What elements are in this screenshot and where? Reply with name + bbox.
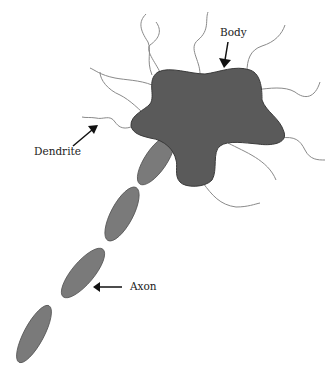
dendrite-label: Dendrite (34, 145, 81, 157)
axon-segment-3 (55, 242, 112, 304)
axon-label: Axon (129, 280, 157, 292)
dendrite-annotation: Dendrite (34, 125, 98, 157)
dendrite-lower-right-1 (280, 138, 325, 161)
dendrite-right (255, 82, 320, 97)
body-label: Body (220, 26, 247, 38)
body-arrow-shaft (225, 42, 228, 60)
dendrite-top-right (247, 25, 285, 72)
dendrite-top-2 (149, 22, 160, 72)
body-annotation: Body (219, 26, 247, 68)
axon (10, 130, 181, 367)
axon-segment-2 (98, 182, 146, 245)
neuron-svg: Body Dendrite Axon (0, 0, 334, 376)
body-arrow-head-icon (219, 58, 231, 68)
dendrite-top-3 (194, 12, 208, 74)
dendrite-lower-right-2 (228, 143, 276, 180)
axon-annotation: Axon (93, 280, 157, 292)
neuron-diagram: Body Dendrite Axon (0, 0, 334, 376)
axon-arrow-head-icon (93, 282, 100, 292)
dendrite-arrow-shaft (73, 130, 92, 146)
dendrite-upper-left (90, 68, 152, 85)
dendrite-bottom (203, 183, 260, 207)
axon-segment-4 (10, 301, 58, 367)
